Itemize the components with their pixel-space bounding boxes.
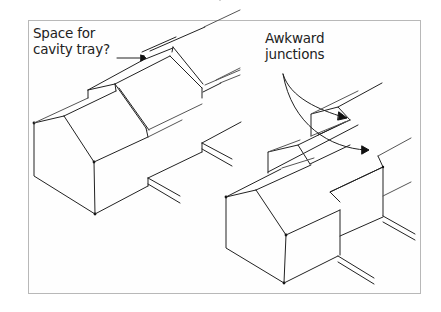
awkward-junctions-label: Awkward junctions xyxy=(265,30,324,62)
cavity-tray-label: Space for cavity tray? xyxy=(33,25,110,57)
cavity-tray-arrow xyxy=(117,55,146,61)
cavity-tray-label-line-1: Space for xyxy=(33,25,110,41)
right-terrace-drawing xyxy=(220,75,415,284)
cavity-tray-label-line-2: cavity tray? xyxy=(33,41,110,57)
awkward-junctions-label-line-1: Awkward xyxy=(265,30,324,46)
awkward-junctions-label-line-2: junctions xyxy=(265,46,324,62)
